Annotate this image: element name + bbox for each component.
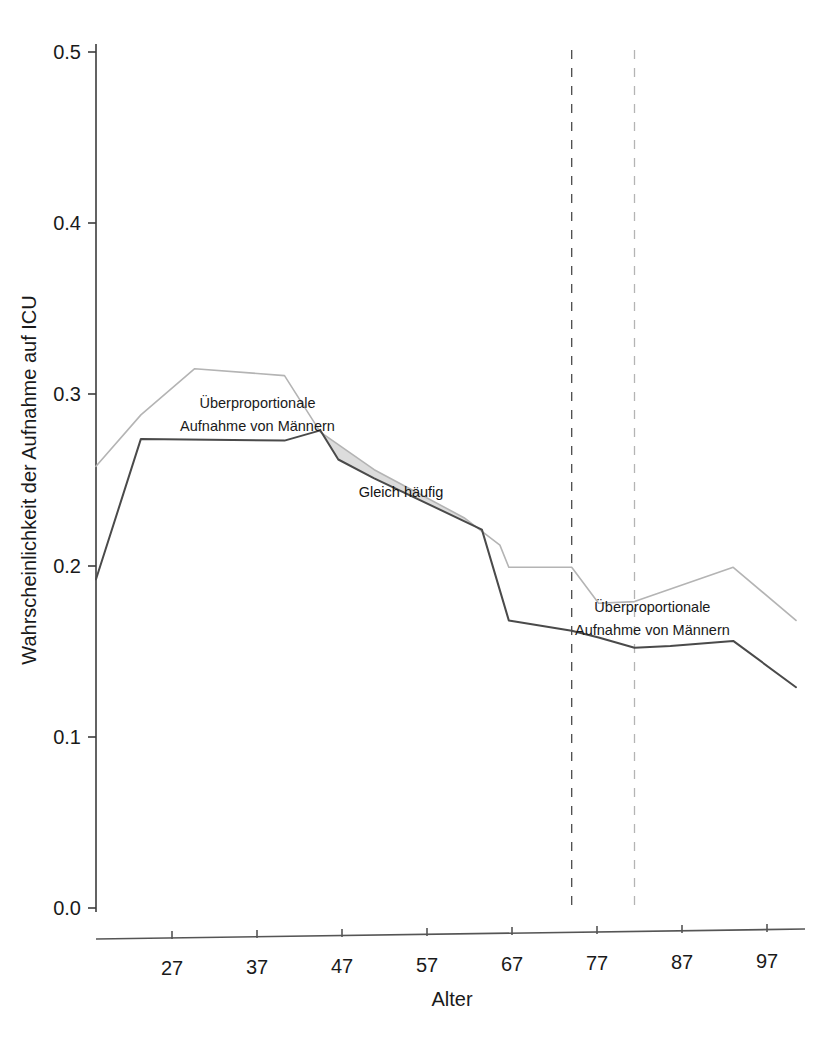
icu-admission-probability-chart: 0.5 0.4 0.3 0.2 0.1 0.0 27 37 47 57 67 7… [0, 0, 813, 1037]
x-axis-title: Alter [431, 988, 472, 1010]
y-axis-title: Wahrscheinlichkeit der Aufnahme auf ICU [18, 295, 40, 664]
x-tick-label-27: 27 [161, 957, 183, 979]
x-tick-label-47: 47 [331, 955, 353, 977]
y-tick-label-0.2: 0.2 [53, 555, 81, 577]
annotation-bottom-line1: Überproportionale [594, 598, 710, 615]
x-tick-label-67: 67 [501, 953, 523, 975]
y-tick-label-0.3: 0.3 [53, 383, 81, 405]
x-tick-label-57: 57 [416, 954, 438, 976]
x-tick-label-87: 87 [671, 951, 693, 973]
y-axis [88, 44, 96, 912]
x-tick-label-37: 37 [246, 956, 268, 978]
y-tick-label-0.0: 0.0 [53, 897, 81, 919]
shaded-band-gleich-haeufig [320, 430, 482, 531]
annotation-top-line1: Überproportionale [199, 394, 315, 411]
x-tick-label-97: 97 [756, 950, 778, 972]
annotation-band-gleich-haeufig: Gleich häufig [359, 484, 444, 500]
annotation-bottom-line2: Aufnahme von Männern [575, 622, 730, 638]
annotation-top-line2: Aufnahme von Männern [180, 418, 335, 434]
y-tick-label-0.5: 0.5 [53, 41, 81, 63]
y-tick-label-0.4: 0.4 [53, 212, 81, 234]
series-path-maenner [96, 430, 796, 687]
annotation-bottom-ueberproportionale: Überproportionale Aufnahme von Männern [575, 598, 730, 638]
x-axis [96, 924, 805, 939]
x-tick-label-77: 77 [586, 952, 608, 974]
chart-figure: 0.5 0.4 0.3 0.2 0.1 0.0 27 37 47 57 67 7… [0, 0, 813, 1037]
y-tick-label-0.1: 0.1 [53, 726, 81, 748]
annotation-top-ueberproportionale: Überproportionale Aufnahme von Männern [180, 394, 335, 434]
